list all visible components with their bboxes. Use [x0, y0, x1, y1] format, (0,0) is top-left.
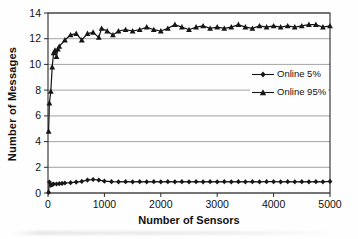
triangle-marker — [47, 100, 53, 105]
diamond-marker — [180, 179, 185, 184]
triangle-marker — [90, 29, 96, 34]
triangle-marker — [236, 22, 242, 27]
diamond-marker — [96, 178, 101, 183]
legend-item-online-5: Online 5% — [250, 68, 323, 80]
diamond-marker — [187, 179, 192, 184]
triangle-marker — [48, 88, 54, 93]
diamond-marker — [74, 180, 79, 185]
x-tick-label: 2000 — [149, 198, 173, 210]
diamond-marker — [194, 179, 199, 184]
diamond-marker — [102, 179, 107, 184]
triangle-marker — [285, 23, 291, 28]
diamond-marker — [173, 179, 178, 184]
chart-svg: 02468101214010002000300040005000 — [0, 0, 358, 239]
y-tick-label: 12 — [29, 32, 41, 44]
diamond-marker — [257, 179, 262, 184]
diamond-marker — [314, 179, 319, 184]
diamond-marker — [243, 179, 248, 184]
x-tick-label: 5000 — [318, 198, 342, 210]
triangle-marker — [257, 23, 263, 28]
diamond-marker — [321, 179, 326, 184]
diamond-marker — [328, 179, 333, 184]
y-tick-label: 4 — [35, 135, 41, 147]
x-tick-label: 0 — [45, 198, 51, 210]
diamond-marker — [264, 179, 269, 184]
legend-label-online-5: Online 5% — [277, 68, 321, 80]
diamond-marker — [68, 180, 73, 185]
y-tick-label: 10 — [29, 58, 41, 70]
x-tick-label: 4000 — [262, 198, 286, 210]
diamond-marker — [292, 179, 297, 184]
triangle-marker — [49, 64, 55, 69]
diamond-marker — [144, 179, 149, 184]
diamond-marker — [250, 179, 255, 184]
diamond-marker — [137, 179, 142, 184]
diamond-marker — [46, 190, 51, 195]
y-tick-label: 6 — [35, 109, 41, 121]
diamond-marker — [299, 179, 304, 184]
diamond-marker — [278, 179, 283, 184]
x-axis-title: Number of Sensors — [138, 214, 239, 226]
y-axis-title: Number of Messages — [6, 47, 18, 161]
x-tick-label: 1000 — [93, 198, 117, 210]
x-tick-label: 3000 — [206, 198, 230, 210]
triangle-marker-icon — [252, 88, 274, 97]
scan-artifact — [12, 231, 344, 235]
diamond-marker — [63, 180, 68, 185]
diamond-marker — [85, 178, 90, 183]
diamond-marker — [151, 179, 156, 184]
y-tick-label: 0 — [35, 187, 41, 199]
triangle-marker — [46, 128, 52, 133]
diamond-marker — [201, 179, 206, 184]
diamond-marker — [116, 179, 121, 184]
diamond-marker — [165, 179, 170, 184]
triangle-marker — [99, 25, 105, 30]
triangle-marker — [73, 31, 79, 36]
y-tick-label: 14 — [29, 7, 41, 19]
triangle-marker — [123, 27, 129, 32]
triangle-marker — [165, 25, 171, 30]
triangle-marker — [172, 22, 178, 27]
diamond-marker — [229, 179, 234, 184]
diamond-marker — [130, 179, 135, 184]
diamond-marker — [271, 179, 276, 184]
diamond-marker — [236, 179, 241, 184]
diamond-marker — [222, 179, 227, 184]
triangle-marker — [200, 23, 206, 28]
plot-border — [48, 13, 330, 193]
diamond-marker — [79, 179, 84, 184]
triangle-marker — [110, 32, 116, 37]
y-tick-label: 8 — [35, 84, 41, 96]
diamond-marker — [123, 179, 128, 184]
diamond-marker — [91, 177, 96, 182]
figure: 02468101214010002000300040005000 Number … — [0, 0, 358, 239]
triangle-marker — [271, 23, 277, 28]
legend-label-online-95: Online 95% — [277, 86, 326, 98]
diamond-marker — [285, 179, 290, 184]
diamond-marker — [307, 179, 312, 184]
diamond-marker-icon — [252, 70, 274, 79]
triangle-marker — [144, 24, 150, 29]
y-tick-label: 2 — [35, 161, 41, 173]
diamond-marker — [208, 179, 213, 184]
legend-item-online-95: Online 95% — [250, 86, 328, 98]
diamond-marker — [109, 179, 114, 184]
diamond-marker — [158, 179, 163, 184]
triangle-marker — [327, 23, 333, 28]
diamond-marker — [215, 179, 220, 184]
triangle-marker — [214, 24, 220, 29]
